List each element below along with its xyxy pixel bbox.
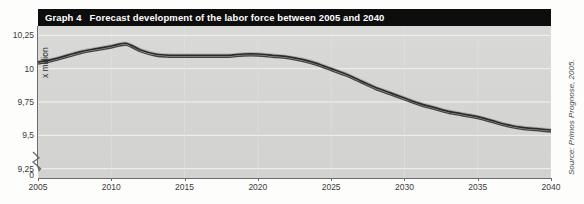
x-tick-mark (185, 178, 186, 181)
x-tick-label: 2015 (175, 182, 194, 192)
x-axis-line (38, 178, 551, 179)
source-credit: Source: Primos Prognose, 2005. (567, 59, 576, 175)
y-tick-label: 10,25 (13, 30, 34, 40)
x-tick-label: 2020 (248, 182, 267, 192)
x-tick-mark (478, 178, 479, 181)
x-tick-label: 2035 (468, 182, 487, 192)
x-tick-mark (111, 178, 112, 181)
series-line-shadow (38, 43, 551, 130)
y-tick-label: 10 (25, 64, 34, 74)
y-tick-label: 9,5 (22, 130, 34, 140)
x-tick-label: 2005 (29, 182, 48, 192)
figure-container: Graph 4 Forecast development of the labo… (0, 0, 584, 204)
x-tick-mark (404, 178, 405, 181)
y-axis-tick-labels: 10,25109,759,59,250 (0, 0, 34, 204)
x-tick-mark (258, 178, 259, 181)
y-tick-label: 9,75 (17, 97, 34, 107)
x-tick-label: 2040 (542, 182, 561, 192)
x-tick-label: 2025 (322, 182, 341, 192)
chart-data-svg (38, 26, 551, 178)
y-axis-line (37, 26, 38, 167)
x-tick-label: 2010 (102, 182, 121, 192)
x-tick-mark (38, 178, 39, 181)
horizontal-gridlines (38, 35, 551, 168)
x-tick-label: 2030 (395, 182, 414, 192)
chart-label-number: Graph 4 (45, 12, 82, 23)
chart-title-text: Forecast development of the labor force … (90, 12, 385, 23)
x-tick-mark (331, 178, 332, 181)
x-tick-mark (551, 178, 552, 181)
y-axis-title: x million (40, 47, 50, 78)
plot-area (38, 26, 551, 178)
axis-break-icon (30, 150, 50, 172)
chart-title-banner: Graph 4 Forecast development of the labo… (38, 9, 551, 26)
